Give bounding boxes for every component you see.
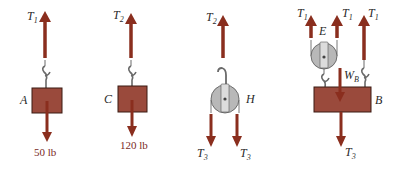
force-arrow-t2-up: [125, 13, 137, 58]
pulley-icon: [211, 84, 239, 113]
body-label-c: C: [104, 92, 113, 106]
hook-icon: [129, 60, 136, 86]
force-arrow-t3-down-left: [206, 114, 216, 147]
force-arrow-t2-up: [217, 15, 229, 58]
pulley-icon: [311, 40, 337, 69]
force-arrow-t3-down: [336, 112, 346, 147]
diagram-a: T1 A 50 lb: [19, 9, 62, 158]
weight-label-50lb: 50 lb: [34, 146, 57, 158]
hook-icon: [322, 69, 329, 87]
free-body-diagrams: T1 A 50 lb T2 C 120 lb: [0, 0, 393, 169]
body-label-h: H: [245, 92, 256, 106]
force-label-t3-right: T3: [240, 146, 251, 162]
force-arrow-t1-up-right: [358, 15, 370, 60]
body-label-a: A: [19, 93, 28, 107]
block-b: [314, 87, 371, 112]
hook-icon: [43, 60, 50, 88]
weight-label-wb: WB: [344, 68, 359, 84]
force-label-t2: T2: [113, 8, 124, 24]
force-label-t3-left: T3: [197, 146, 208, 162]
diagram-c: T2 C 120 lb: [104, 8, 148, 151]
pulley-label-e: E: [318, 24, 327, 38]
hook-icon: [218, 68, 226, 85]
force-label-t1-left: T1: [297, 6, 308, 22]
force-arrow-t3-down-right: [232, 114, 242, 147]
force-label-t2: T2: [206, 10, 217, 26]
force-label-t1-middle: T1: [342, 6, 353, 22]
diagram-h: T2 H T3 T3: [197, 10, 256, 162]
force-arrow-t1-up: [39, 11, 51, 58]
force-label-t1-right: T1: [368, 6, 379, 22]
weight-label-120lb: 120 lb: [120, 139, 148, 151]
body-label-b: B: [375, 93, 383, 107]
force-label-t3: T3: [345, 145, 356, 161]
diagram-b: T1 T1 T1 E B WB: [297, 6, 383, 161]
hook-icon: [362, 60, 369, 87]
force-label-t1: T1: [27, 9, 38, 25]
